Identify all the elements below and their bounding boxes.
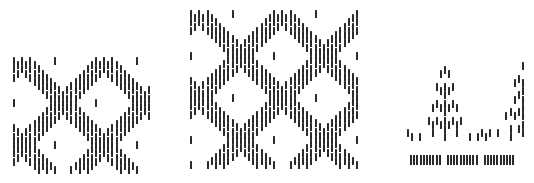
weave-dash: [95, 158, 97, 166]
weave-dash: [136, 99, 138, 107]
weave-dash: [236, 140, 238, 148]
weave-dash: [302, 73, 304, 81]
weave-dash: [13, 124, 15, 132]
weave-dash: [252, 65, 254, 73]
weave-dash: [58, 112, 60, 120]
weave-dash: [38, 149, 40, 157]
weave-dash: [444, 117, 446, 125]
weave-dash: [29, 141, 31, 149]
weave-dash: [335, 65, 337, 73]
weave-dash: [518, 125, 520, 133]
weave-dash: [335, 31, 337, 39]
weave-dash: [352, 98, 354, 106]
weave-dash: [277, 90, 279, 98]
weave-dash: [256, 128, 258, 136]
weave-dash: [352, 14, 354, 22]
weave-dash: [128, 124, 130, 132]
weave-dash: [116, 78, 118, 86]
weave-dash: [335, 123, 337, 131]
weave-dash: [256, 153, 258, 161]
weave-dash: [91, 120, 93, 128]
weave-dash: [207, 77, 209, 85]
weave-dash: [111, 124, 113, 132]
weave-dash: [327, 132, 329, 140]
weave-dash: [111, 74, 113, 82]
weave-dash: [240, 128, 242, 136]
weave-dash: [50, 103, 52, 111]
weave-dash: [344, 31, 346, 39]
weave-dash: [352, 107, 354, 115]
weave-dash: [294, 81, 296, 89]
fringe-bar: [496, 155, 498, 165]
weave-dash: [79, 91, 81, 99]
weave-dash: [315, 94, 317, 102]
weave-dash: [290, 27, 292, 35]
weave-dash: [207, 102, 209, 110]
weave-dash: [290, 18, 292, 26]
weave-dash: [319, 149, 321, 157]
weave-dash: [91, 78, 93, 86]
weave-dash: [132, 112, 134, 120]
weave-dash: [223, 69, 225, 77]
weave-dash: [485, 133, 487, 141]
fringe-bar: [432, 155, 434, 165]
weave-dash: [103, 57, 105, 65]
weave-dash: [477, 133, 479, 141]
weave-dash: [310, 157, 312, 165]
weave-dash: [298, 35, 300, 43]
weave-dash: [223, 119, 225, 127]
weave-dash: [323, 136, 325, 144]
weave-dash: [344, 65, 346, 73]
weave-dash: [79, 124, 81, 132]
weave-dash: [107, 137, 109, 145]
weave-dash: [136, 116, 138, 124]
weave-dash: [310, 140, 312, 148]
weave-dash: [34, 137, 36, 145]
weave-dash: [248, 52, 250, 60]
fringe-bar: [463, 155, 465, 165]
weave-dash: [46, 82, 48, 90]
weave-dash: [356, 136, 358, 144]
weave-dash: [331, 119, 333, 127]
weave-dash: [290, 111, 292, 119]
weave-dash: [116, 154, 118, 162]
weave-dash: [256, 35, 258, 43]
weave-dash: [17, 128, 19, 136]
weave-dash: [335, 39, 337, 47]
weave-dash: [232, 128, 234, 136]
weave-dash: [327, 48, 329, 56]
weave-dash: [273, 27, 275, 35]
weave-dash: [348, 102, 350, 110]
weave-dash: [227, 115, 229, 123]
weave-dash: [261, 23, 263, 31]
weave-dash: [83, 70, 85, 78]
weave-dash: [87, 74, 89, 82]
weave-dash: [327, 65, 329, 73]
weave-dash: [252, 140, 254, 148]
weave-dash: [223, 35, 225, 43]
weave-dash: [227, 73, 229, 81]
weave-dash: [50, 95, 52, 103]
weave-dash: [356, 10, 358, 18]
weave-dash: [331, 128, 333, 136]
weave-dash: [124, 112, 126, 120]
weave-dash: [331, 153, 333, 161]
weave-dash: [261, 73, 263, 81]
weave-dash: [75, 78, 77, 86]
weave-dash: [240, 144, 242, 152]
weave-dash: [298, 27, 300, 35]
weave-dash: [13, 74, 15, 82]
weave-dash: [323, 60, 325, 68]
weave-dash: [319, 65, 321, 73]
weave-dash: [294, 90, 296, 98]
weave-dash: [331, 44, 333, 52]
weave-dash: [248, 136, 250, 144]
weave-dash: [315, 144, 317, 152]
weave-dash: [128, 91, 130, 99]
weave-dash: [339, 161, 341, 169]
weave-dash: [95, 57, 97, 65]
weave-dash: [352, 31, 354, 39]
weave-dash: [327, 149, 329, 157]
weave-dash: [273, 18, 275, 26]
weave-dash: [83, 78, 85, 86]
